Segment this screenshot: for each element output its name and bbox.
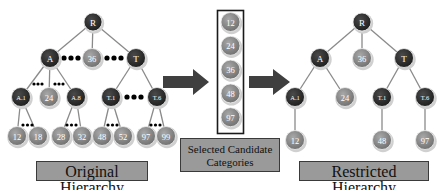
selected-candidates-label-line1: Selected Candidate [181,143,279,156]
node-label: R [359,18,365,28]
tree-node-18: 18 [28,127,49,149]
tree-node-97: 97 [136,127,157,149]
node-label: A [47,54,54,64]
node-label: R [90,18,96,28]
node-label: 48 [98,132,107,142]
node-label: 36 [226,65,235,75]
tree-node-A-1: A.1 [285,88,306,110]
tree-node-36: 36 [82,49,103,71]
node-label: 28 [57,132,66,142]
node-label: 24 [226,41,235,51]
tree-node-36: 36 [352,49,373,71]
candidate-nodes: 1224364897 [221,13,242,130]
tree-node-48: 48 [92,127,113,149]
tree-node-12: 12 [285,131,306,153]
tree-node-52: 52 [113,127,134,149]
node-label: 12 [291,136,300,146]
tree-node-R: R [84,13,104,34]
restricted-hierarchy-edges [295,22,425,140]
tree-node-48: 48 [372,131,393,153]
node-label: 32 [78,132,87,142]
tree-node-12: 12 [7,127,28,149]
tree-node-99: 99 [156,127,177,149]
tree-node-A-1: A.1 [11,88,32,110]
node-label: 36 [358,54,367,64]
node-label: T [401,54,407,64]
tree-node-24: 24 [335,88,356,110]
tree-node-97: 97 [415,131,436,153]
node-label: 97 [421,136,430,146]
tree-node-28: 28 [51,127,72,149]
tree-node-T-6: T.6 [415,88,436,110]
ellipsis-icon [61,55,80,60]
node-label: A.8 [71,94,81,101]
tree-node-A: A [40,49,61,71]
node-label: 99 [162,132,171,142]
tree-node-T-6: T.6 [147,88,168,110]
node-label: 36 [88,54,97,64]
tree-node-T: T [126,49,147,71]
tree-node-T-1: T.1 [101,88,122,110]
node-label: 97 [142,132,151,142]
node-label: T.6 [153,94,162,101]
selected-candidates-label-line2: Categories [181,156,279,169]
node-label: 97 [226,113,235,123]
ellipsis-icon [32,82,43,85]
node-label: 52 [119,132,128,142]
node-label: 48 [378,136,387,146]
tree-node-32: 32 [72,127,93,149]
node-label: T [133,54,139,64]
node-label: 12 [226,18,235,28]
tree-node-A-8: A.8 [66,88,87,110]
node-label: A [317,54,324,64]
node-label: 12 [13,132,22,142]
tree-node-R: R [353,13,373,34]
node-label: A.1 [16,94,26,101]
node-label: 48 [226,89,235,99]
node-label: 24 [341,93,350,103]
arrow-right-icon [249,69,290,95]
ellipsis-icon [149,123,161,126]
ellipsis-icon [21,123,33,126]
ellipsis-icon [106,123,118,126]
node-label: 18 [34,132,43,142]
ellipsis-icon [104,55,123,60]
original-hierarchy-label: Original Hierarchy [36,161,148,181]
tree-node-24: 24 [39,88,60,110]
restricted-hierarchy-nodes: RA36TA.124T.1T.6124897 [285,13,436,152]
original-hierarchy-edges [17,22,166,136]
selected-candidates-label: Selected Candidate Categories [180,138,280,172]
tree-node-T-1: T.1 [372,88,393,110]
node-label: 24 [45,93,54,103]
ellipsis-icon [124,94,143,99]
node-label: T.1 [378,94,386,101]
node-label: T.1 [107,94,115,101]
ellipsis-icon [53,82,64,85]
node-label: T.6 [421,94,430,101]
tree-node-T: T [394,49,415,71]
tree-node-A: A [310,49,331,71]
ellipsis-icon [65,123,77,126]
restricted-hierarchy-label: Restricted Hierarchy [299,161,429,181]
node-label: A.1 [290,94,300,101]
arrow-right-icon [163,69,209,95]
